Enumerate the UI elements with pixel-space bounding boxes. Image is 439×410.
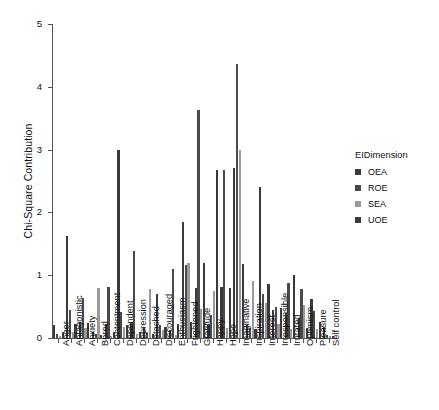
plot-area [52,24,335,338]
x-axis-tick-mark [161,339,162,343]
legend-item-label: UOE [368,215,388,225]
legend-swatch-icon [355,169,361,175]
x-axis-category-label: Enthusiasm [178,297,187,346]
x-axis-tick-mark [71,339,72,343]
x-axis-tick-mark [213,339,214,343]
y-axis-tick-label: 3 [28,145,42,155]
x-axis-tick-mark [174,339,175,343]
x-axis-category-label: Imaginative [242,298,251,346]
y-axis-tick-label: 0 [28,333,42,343]
legend-item-uoe[interactable]: UOE [355,215,408,225]
legend-title: EIDimension [355,150,408,160]
x-axis-tick-mark [251,339,252,343]
x-axis-category-label: Depression [139,299,148,346]
legend: EIDimension OEAROESEAUOE [355,150,408,231]
x-axis-category-label: Optimism [306,307,315,346]
x-axis-category-label: Pleasure [319,309,328,346]
legend-item-oea[interactable]: OEA [355,167,408,177]
legend-item-roe[interactable]: ROE [355,183,408,193]
y-axis-tick-label: 1 [28,270,42,280]
y-axis-tick-label: 2 [28,207,42,217]
x-axis-category-label: Frightened [191,302,200,346]
x-axis-category-label: Happy [216,319,225,346]
x-axis-tick-mark [136,339,137,343]
bar [223,170,225,338]
bar [216,170,218,338]
x-axis-tick-mark [226,339,227,343]
x-axis-category-label: Discouraged [165,294,174,346]
x-axis-tick-mark [316,339,317,343]
x-axis-category-label: Inspiration [255,303,264,346]
legend-item-sea[interactable]: SEA [355,199,408,209]
x-axis-tick-mark [303,339,304,343]
x-axis-category-label: Dependent [126,301,135,347]
y-axis-tick-label: 5 [28,19,42,29]
legend-item-label: OEA [368,167,387,177]
legend-item-label: SEA [368,199,386,209]
x-axis-category-label: Anger [62,321,71,346]
x-axis-category-label: Antagonistic [75,295,84,346]
x-axis-category-label: Interest [268,315,277,346]
x-axis-tick-mark [123,339,124,343]
x-axis-tick-mark [264,339,265,343]
x-axis-tick-mark [84,339,85,343]
x-axis-tick-mark [58,339,59,343]
x-axis-category-label: Self control [332,299,341,346]
chi-square-bar-chart: Chi-Square Contribution 012345 AngerAnta… [0,0,439,410]
y-axis-title: Chi-Square Contribution [22,24,38,338]
x-axis-category-label: Contentment [113,293,122,346]
x-axis-category-label: Detached [152,306,161,346]
x-axis-tick-mark [239,339,240,343]
x-axis-tick-mark [329,339,330,343]
legend-swatch-icon [355,201,361,207]
legend-item-label: ROE [368,183,388,193]
legend-items: OEAROESEAUOE [355,167,408,225]
x-axis-category-label: Bored [101,321,110,346]
x-axis-category-label: Hope [229,324,238,346]
x-axis-tick-mark [148,339,149,343]
x-axis-category-label: Gratitude [203,308,212,346]
y-axis-tick-label: 4 [28,82,42,92]
x-axis-category-label: Irritated [293,314,302,346]
legend-swatch-icon [355,185,361,191]
x-axis-category-label: Anxiety [88,316,97,347]
x-axis-category-label: Irresponsible [281,293,290,346]
legend-swatch-icon [355,217,361,223]
